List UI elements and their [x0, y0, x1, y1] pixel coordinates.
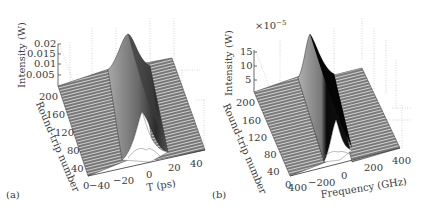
- panel-b-spectral: ×10−5 Intensity (W) 15 10 5 Round-trip n…: [212, 0, 424, 213]
- x-tick: 400: [392, 156, 411, 166]
- z-tick: 0.01: [34, 59, 56, 69]
- y-tick: 120: [248, 133, 267, 143]
- y-tick: 80: [67, 146, 80, 156]
- x-tick: 20: [168, 163, 181, 173]
- panel-label: (b): [212, 190, 226, 200]
- z-tick: 10: [240, 61, 253, 71]
- y-tick: 40: [71, 164, 84, 174]
- y-tick: 200: [39, 92, 58, 102]
- panel-label: (a): [6, 190, 20, 200]
- x-tick: 40: [190, 159, 203, 169]
- x-tick: 400: [288, 183, 307, 193]
- y-tick: 120: [55, 128, 74, 138]
- z-tick: 0.005: [26, 70, 55, 80]
- x-tick: 0: [146, 170, 152, 180]
- x-tick: 0: [341, 171, 347, 181]
- z-axis-label: Intensity (W): [224, 30, 234, 96]
- y-tick: 40: [267, 167, 280, 177]
- x-tick: −20: [113, 176, 134, 186]
- x-tick: −40: [89, 181, 110, 191]
- z-tick: 5: [245, 75, 251, 85]
- multiplier-label: ×10−5: [255, 20, 286, 31]
- z-tick: 15: [240, 47, 253, 57]
- y-tick: 160: [46, 110, 65, 120]
- y-tick: 160: [242, 116, 261, 126]
- panel-a-temporal: Intensity (W) 0.02 0.015 0.01 0.005 Roun…: [0, 0, 212, 213]
- y-tick: 80: [264, 150, 277, 160]
- x-tick: 200: [364, 163, 383, 173]
- y-tick: 200: [236, 98, 255, 108]
